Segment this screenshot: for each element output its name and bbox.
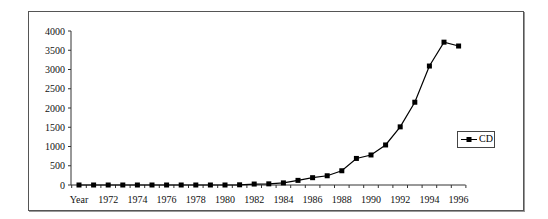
x-tick-label: 1990 bbox=[361, 194, 381, 205]
x-tick-label: 1986 bbox=[303, 194, 323, 205]
data-point-marker bbox=[150, 183, 155, 188]
data-point-marker bbox=[223, 183, 228, 188]
x-tick-label: 1976 bbox=[157, 194, 177, 205]
data-point-marker bbox=[427, 64, 432, 69]
data-point-marker bbox=[456, 44, 461, 49]
data-point-marker bbox=[310, 175, 315, 180]
data-point-marker bbox=[442, 40, 447, 45]
x-tick-label: 1988 bbox=[332, 194, 352, 205]
y-tick-label: 1500 bbox=[45, 122, 65, 133]
legend-label: CD bbox=[479, 133, 493, 144]
x-tick-label: 1972 bbox=[98, 194, 118, 205]
data-point-marker bbox=[208, 183, 213, 188]
y-tick-label: 0 bbox=[60, 180, 65, 191]
data-point-marker bbox=[281, 180, 286, 185]
y-tick-label: 2000 bbox=[45, 103, 65, 114]
legend: CD bbox=[457, 131, 495, 148]
data-point-marker bbox=[106, 183, 111, 188]
x-tick-label: Year bbox=[70, 194, 89, 205]
data-point-marker bbox=[77, 183, 82, 188]
x-tick-label: 1978 bbox=[186, 194, 206, 205]
series-line-CD bbox=[79, 42, 459, 185]
x-tick-label: 1996 bbox=[449, 194, 469, 205]
data-point-marker bbox=[135, 183, 140, 188]
y-tick-label: 3000 bbox=[45, 64, 65, 75]
data-point-marker bbox=[369, 152, 374, 157]
data-point-marker bbox=[193, 183, 198, 188]
data-point-marker bbox=[120, 183, 125, 188]
data-point-marker bbox=[91, 183, 96, 188]
data-point-marker bbox=[398, 124, 403, 129]
line-chart: 05001000150020002500300035004000Year1972… bbox=[0, 0, 548, 219]
y-tick-label: 3500 bbox=[45, 45, 65, 56]
y-tick-label: 500 bbox=[50, 160, 65, 171]
x-tick-label: 1982 bbox=[244, 194, 264, 205]
data-point-marker bbox=[383, 142, 388, 147]
x-tick-label: 1974 bbox=[127, 194, 147, 205]
data-point-marker bbox=[252, 182, 257, 187]
data-point-marker bbox=[296, 178, 301, 183]
y-tick-label: 1000 bbox=[45, 141, 65, 152]
x-tick-label: 1984 bbox=[273, 194, 293, 205]
data-point-marker bbox=[164, 183, 169, 188]
x-tick-label: 1994 bbox=[419, 194, 439, 205]
data-point-marker bbox=[412, 100, 417, 105]
data-point-marker bbox=[237, 182, 242, 187]
x-tick-label: 1980 bbox=[215, 194, 235, 205]
data-point-marker bbox=[179, 183, 184, 188]
data-point-marker bbox=[266, 181, 271, 186]
y-tick-label: 2500 bbox=[45, 83, 65, 94]
data-point-marker bbox=[325, 173, 330, 178]
y-tick-label: 4000 bbox=[45, 26, 65, 37]
data-point-marker bbox=[354, 156, 359, 161]
data-point-marker bbox=[339, 168, 344, 173]
x-tick-label: 1992 bbox=[390, 194, 410, 205]
